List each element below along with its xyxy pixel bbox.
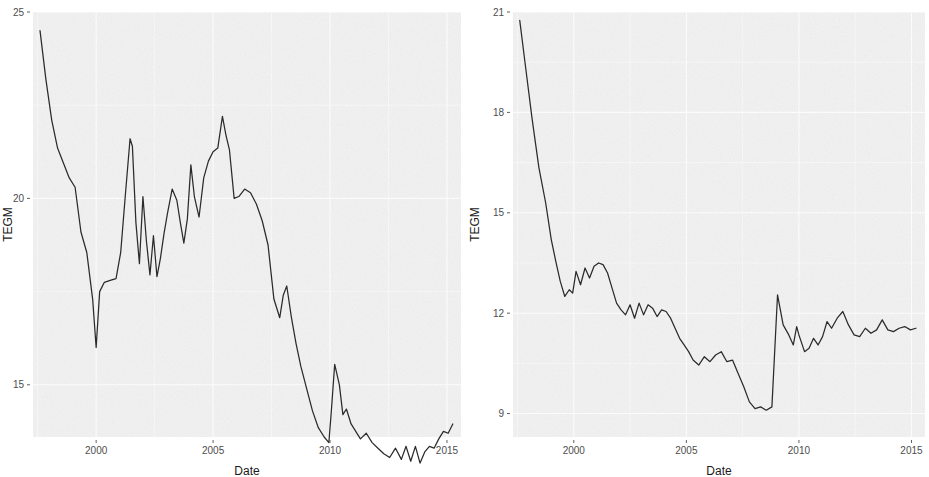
y-tick-label: 9	[498, 408, 504, 419]
chart-panel-left: 152025 2000200520102015 Date TEGM	[0, 0, 465, 477]
figure-container: 152025 2000200520102015 Date TEGM	[0, 0, 929, 477]
x-tick-label: 2005	[202, 445, 225, 456]
left-panel-background	[33, 12, 461, 437]
right-x-axis-title: Date	[706, 464, 732, 477]
right-chart-svg: 912151821 2000200520102015 Date TEGM	[465, 0, 929, 477]
right-panel-background	[513, 12, 925, 437]
x-tick-label: 2015	[900, 445, 923, 456]
y-tick-label: 15	[492, 207, 504, 218]
x-tick-label: 2000	[562, 445, 585, 456]
left-y-axis-title: TEGM	[1, 207, 15, 242]
y-tick-label: 15	[13, 379, 25, 390]
left-panel	[33, 12, 461, 463]
x-tick-label: 2000	[85, 445, 108, 456]
right-panel	[513, 12, 925, 437]
right-y-axis-title: TEGM	[468, 207, 482, 242]
chart-panel-right: 912151821 2000200520102015 Date TEGM	[465, 0, 929, 477]
y-tick-label: 20	[13, 193, 25, 204]
left-x-axis-title: Date	[234, 464, 260, 477]
y-tick-label: 25	[13, 7, 25, 18]
x-tick-label: 2015	[436, 445, 459, 456]
y-tick-label: 21	[492, 7, 504, 18]
x-tick-label: 2010	[319, 445, 342, 456]
x-tick-label: 2010	[787, 445, 810, 456]
left-chart-svg: 152025 2000200520102015 Date TEGM	[0, 0, 464, 477]
y-tick-label: 18	[492, 107, 504, 118]
y-tick-label: 12	[492, 308, 504, 319]
x-tick-label: 2005	[675, 445, 698, 456]
